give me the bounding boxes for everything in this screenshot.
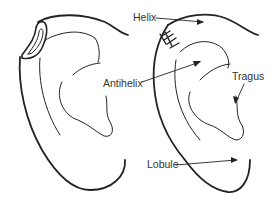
left-ear-figure: [20, 15, 128, 190]
ear-diagram-art: [0, 0, 277, 200]
label-tragus: Tragus: [232, 71, 264, 82]
label-antihelix: Antihelix: [103, 78, 143, 89]
label-lobule: Lobule: [147, 159, 179, 170]
label-helix: Helix: [133, 12, 156, 23]
